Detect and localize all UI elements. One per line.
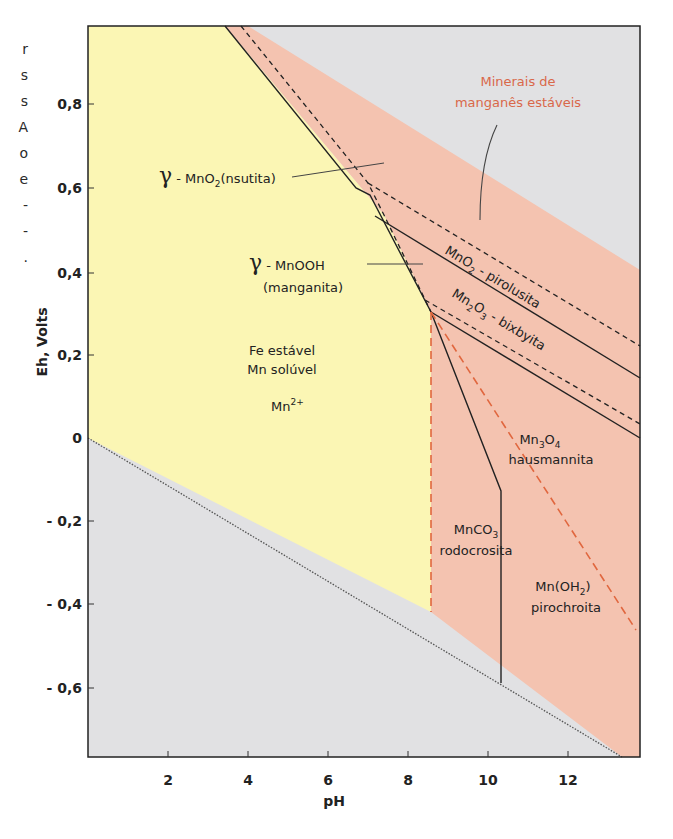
- formula: Mn(OH: [535, 579, 580, 594]
- gamma-symbol: γ: [249, 250, 262, 275]
- x-tick-label: 12: [558, 772, 577, 788]
- manganita-name: (manganita): [263, 280, 343, 295]
- x-tick-label: 8: [403, 772, 413, 788]
- y-tick-label: 0: [72, 430, 82, 446]
- formula: Mn: [519, 432, 538, 447]
- formula: O: [545, 432, 555, 447]
- x-tick-label: 2: [163, 772, 173, 788]
- regions: [88, 26, 640, 757]
- y-tick-label: 0,2: [57, 347, 82, 363]
- stable-minerals-label-line1: Minerais de: [480, 74, 555, 89]
- y-tick-label: 0,8: [57, 96, 82, 112]
- x-tick-label: 10: [478, 772, 498, 788]
- superscript: 2+: [290, 397, 303, 407]
- manganita-formula: - MnOOH: [262, 258, 325, 273]
- mn-soluble-text: Mn solúvel: [247, 362, 316, 377]
- subscript: 3: [493, 530, 499, 540]
- x-tick-label: 4: [243, 772, 253, 788]
- mn-symbol: Mn: [271, 399, 290, 414]
- formula: ): [586, 579, 591, 594]
- x-tick-labels: 2 4 6 8 10 12: [163, 772, 578, 788]
- x-axis-title: pH: [323, 793, 345, 809]
- formula: MnCO: [454, 522, 493, 537]
- rodocrosita-name: rodocrosita: [440, 543, 513, 558]
- y-tick-label: - 0,2: [47, 513, 83, 529]
- y-tick-label: 0,4: [57, 265, 82, 281]
- hausmannita-name: hausmannita: [508, 452, 593, 467]
- y-tick-label: - 0,4: [47, 596, 83, 612]
- y-tick-label: 0,6: [57, 180, 82, 196]
- y-tick-labels: 0,8 0,6 0,4 0,2 0 - 0,2 - 0,4 - 0,6: [47, 96, 83, 696]
- x-tick-label: 6: [323, 772, 333, 788]
- gamma-symbol: γ: [159, 163, 172, 188]
- stable-minerals-label-line2: manganês estáveis: [455, 95, 581, 110]
- diagram-svg: 2 4 6 8 10 12 pH 0,8 0,6 0,4 0,2 0 - 0,2…: [0, 0, 673, 839]
- subscript: 4: [555, 440, 561, 450]
- y-tick-label: - 0,6: [47, 680, 83, 696]
- y-axis-title: Eh, Volts: [34, 307, 50, 376]
- nsutita-formula: - MnO: [172, 171, 215, 186]
- pirochroita-name: pirochroita: [531, 600, 601, 615]
- eh-ph-diagram-figure: r s s A o e - - .: [0, 0, 673, 839]
- fe-stable-text: Fe estável: [249, 343, 315, 358]
- nsutita-name: (nsutita): [221, 171, 276, 186]
